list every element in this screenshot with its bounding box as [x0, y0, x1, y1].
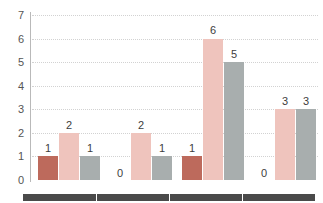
bar-label-3-1: 1 [189, 143, 195, 154]
bar-series-3-group-4[interactable] [296, 109, 316, 180]
bar-group-2: 0 2 1 [110, 14, 174, 180]
bar-group-1: 1 2 1 [38, 14, 102, 180]
bar-label-1-3: 1 [87, 143, 93, 154]
bar-group-4: 0 3 3 [254, 14, 318, 180]
bar-label-1-1: 1 [45, 143, 51, 154]
bar-label-3-3: 5 [231, 49, 237, 60]
bar-label-4-1: 0 [261, 168, 267, 179]
bar-label-3-2: 6 [210, 25, 216, 36]
y-tick-3: 3 [0, 104, 24, 115]
bar-label-2-3: 1 [159, 143, 165, 154]
bar-label-4-3: 3 [303, 96, 309, 107]
bar-group-3: 1 6 5 [182, 14, 246, 180]
y-tick-0: 0 [0, 175, 24, 186]
bar-label-1-2: 2 [66, 120, 72, 131]
bar-series-3-group-2[interactable] [152, 156, 172, 180]
y-tick-2: 2 [0, 128, 24, 139]
bar-series-2-group-4[interactable] [275, 109, 295, 180]
y-tick-5: 5 [0, 57, 24, 68]
y-tick-4: 4 [0, 81, 24, 92]
y-axis-line [30, 12, 31, 182]
bar-series-3-group-3[interactable] [224, 62, 244, 180]
y-tick-6: 6 [0, 34, 24, 45]
band-tick-1 [96, 194, 97, 201]
bar-chart: 7 6 5 4 3 2 1 0 1 2 1 0 2 [0, 0, 323, 203]
band-tick-2 [169, 194, 170, 201]
bar-series-3-group-1[interactable] [80, 156, 100, 180]
bar-label-2-1: 0 [117, 168, 123, 179]
bar-series-1-group-1[interactable] [38, 156, 58, 180]
y-tick-1: 1 [0, 151, 24, 162]
bar-series-1-group-3[interactable] [182, 156, 202, 180]
band-tick-3 [242, 194, 243, 201]
bar-series-2-group-3[interactable] [203, 39, 223, 180]
bar-label-4-2: 3 [282, 96, 288, 107]
bar-label-2-2: 2 [138, 120, 144, 131]
y-tick-7: 7 [0, 10, 24, 21]
bar-series-2-group-1[interactable] [59, 133, 79, 180]
bottom-axis-band [23, 194, 315, 201]
bar-series-2-group-2[interactable] [131, 133, 151, 180]
